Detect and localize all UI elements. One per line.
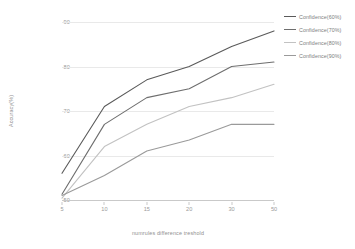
x-tick-label: 10 xyxy=(101,206,107,213)
legend-item[interactable]: Confidence(60%) xyxy=(284,10,354,23)
x-axis-line xyxy=(62,200,274,201)
x-tick-mark xyxy=(231,202,232,205)
x-tick-mark xyxy=(274,202,275,205)
legend-item-label: Confidence(80%) xyxy=(299,40,341,46)
legend-line-swatch-icon xyxy=(284,16,296,17)
x-tick-mark xyxy=(104,202,105,205)
chart-figure: Accuracy(%) 90 80 70 60 50 5 10 15 20 30… xyxy=(0,0,355,249)
legend-line-swatch-icon xyxy=(284,29,296,30)
x-tick-label: 20 xyxy=(186,206,192,213)
legend-item-label: Confidence(60%) xyxy=(299,14,341,20)
plot-area xyxy=(62,22,274,200)
x-tick-mark xyxy=(189,202,190,205)
legend-item[interactable]: Confidence(80%) xyxy=(284,36,354,49)
x-tick-label: 5 xyxy=(60,206,63,213)
legend-item[interactable]: Confidence(70%) xyxy=(284,23,354,36)
x-tick-mark xyxy=(62,202,63,205)
x-tick-label: 15 xyxy=(144,206,150,213)
x-tick-label: 30 xyxy=(228,206,234,213)
legend-line-swatch-icon xyxy=(284,42,296,43)
y-axis-title: Accuracy(%) xyxy=(8,76,14,146)
x-tick-label: 50 xyxy=(271,206,277,213)
x-tick-mark xyxy=(146,202,147,205)
chart-legend: Confidence(60%) Confidence(70%) Confiden… xyxy=(284,10,354,62)
legend-item[interactable]: Confidence(90%) xyxy=(284,49,354,62)
legend-item-label: Confidence(70%) xyxy=(299,27,341,33)
legend-item-label: Confidence(90%) xyxy=(299,53,341,59)
legend-line-swatch-icon xyxy=(284,55,296,56)
x-axis-tick-labels: 5 10 15 20 30 50 xyxy=(62,202,274,214)
series-line-1 xyxy=(62,62,274,194)
x-axis-title: numrules difference treshold xyxy=(62,230,274,236)
series-line-0 xyxy=(62,31,274,173)
series-lines xyxy=(62,22,274,200)
